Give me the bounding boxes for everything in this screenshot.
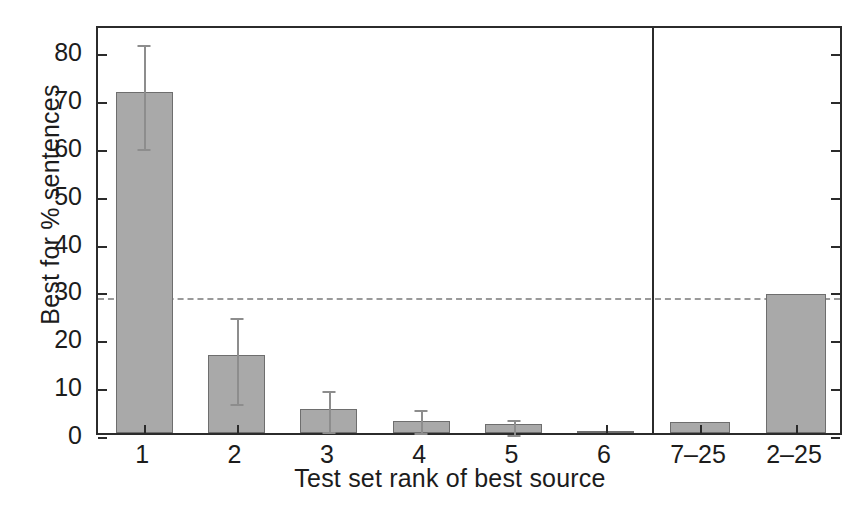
y-axis-tick-mark-right bbox=[831, 246, 840, 248]
y-axis-tick-mark bbox=[98, 341, 107, 343]
error-bar-cap bbox=[138, 45, 151, 47]
error-bar-cap bbox=[230, 318, 243, 320]
error-bar bbox=[329, 391, 331, 432]
error-bar-cap bbox=[415, 433, 428, 435]
y-axis-tick-mark bbox=[98, 102, 107, 104]
error-bar-cap bbox=[230, 404, 243, 406]
y-axis-tick-label: 0 bbox=[22, 421, 82, 450]
error-bar-cap bbox=[507, 435, 520, 437]
x-axis-tick-mark bbox=[796, 425, 798, 433]
error-bar-cap bbox=[138, 149, 151, 151]
y-axis-tick-mark-right bbox=[831, 54, 840, 56]
y-axis-tick-mark-right bbox=[831, 198, 840, 200]
panel-separator-line bbox=[652, 28, 654, 433]
y-axis-tick-label: 70 bbox=[22, 86, 82, 115]
bar-chart-figure: Best for % sentences Test set rank of be… bbox=[0, 0, 868, 511]
y-axis-tick-mark-right bbox=[831, 341, 840, 343]
y-axis-tick-label: 30 bbox=[22, 277, 82, 306]
x-axis-tick-mark bbox=[700, 425, 702, 433]
y-axis-tick-mark bbox=[98, 437, 107, 439]
x-axis-tick-mark bbox=[606, 425, 608, 433]
error-bar bbox=[421, 410, 423, 432]
error-bar bbox=[514, 420, 516, 435]
y-axis-tick-label: 60 bbox=[22, 133, 82, 162]
y-axis-tick-mark-right bbox=[831, 150, 840, 152]
error-bar bbox=[237, 318, 239, 404]
error-bar-cap bbox=[415, 410, 428, 412]
x-axis-tick-label: 2 bbox=[228, 440, 242, 469]
x-axis-tick-label: 2–25 bbox=[766, 440, 822, 469]
y-axis-tick-mark-right bbox=[831, 437, 840, 439]
y-axis-tick-label: 80 bbox=[22, 38, 82, 67]
y-axis-tick-mark-right bbox=[831, 293, 840, 295]
x-axis-tick-label: 6 bbox=[597, 440, 611, 469]
x-axis-tick-label: 5 bbox=[505, 440, 519, 469]
x-axis-tick-label: 4 bbox=[412, 440, 426, 469]
x-axis-tick-label: 3 bbox=[320, 440, 334, 469]
y-axis-tick-label: 40 bbox=[22, 229, 82, 258]
y-axis-tick-label: 50 bbox=[22, 181, 82, 210]
error-bar-cap bbox=[507, 420, 520, 422]
y-axis-tick-mark-right bbox=[831, 102, 840, 104]
reference-line bbox=[98, 298, 840, 300]
y-axis-tick-mark bbox=[98, 150, 107, 152]
y-axis-tick-mark bbox=[98, 246, 107, 248]
y-axis-tick-mark bbox=[98, 198, 107, 200]
x-axis-tick-label: 7–25 bbox=[670, 440, 726, 469]
x-axis-tick-mark bbox=[237, 425, 239, 433]
error-bar-cap bbox=[322, 391, 335, 393]
y-axis-tick-mark bbox=[98, 54, 107, 56]
bar bbox=[766, 294, 826, 433]
y-axis-tick-mark bbox=[98, 389, 107, 391]
error-bar-cap bbox=[322, 432, 335, 434]
plot-area bbox=[96, 26, 842, 435]
x-axis-tick-mark bbox=[144, 425, 146, 433]
y-axis-tick-mark-right bbox=[831, 389, 840, 391]
x-axis-tick-label: 1 bbox=[135, 440, 149, 469]
y-axis-tick-label: 20 bbox=[22, 325, 82, 354]
error-bar bbox=[144, 45, 146, 149]
y-axis-tick-mark bbox=[98, 293, 107, 295]
y-axis-tick-label: 10 bbox=[22, 373, 82, 402]
